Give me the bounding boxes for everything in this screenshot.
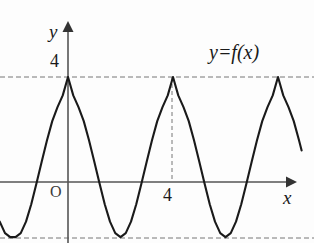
function-equation-label: y=f(x) <box>209 42 259 62</box>
y-tick-label-4: 4 <box>50 52 59 70</box>
x-tick-label-4: 4 <box>163 186 172 204</box>
reference-dashed-lines <box>0 77 314 238</box>
function-curve <box>0 77 302 237</box>
x-axis-arrowhead <box>286 177 297 188</box>
y-axis-label: y <box>49 22 57 41</box>
x-axis-label: x <box>283 188 291 207</box>
coordinate-plot <box>0 0 314 243</box>
origin-label: O <box>50 184 62 200</box>
y-axis-arrowhead <box>63 21 74 32</box>
graph-figure: y x O 4 4 y=f(x) <box>0 0 314 243</box>
